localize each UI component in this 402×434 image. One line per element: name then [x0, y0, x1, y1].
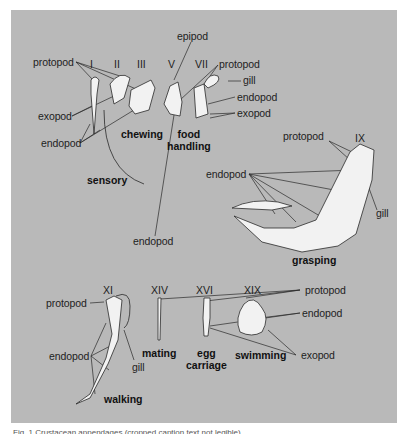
- function-label-mating: mating: [142, 347, 176, 359]
- label-protopod-grasping: protopod: [283, 131, 324, 142]
- function-label-swimming: swimming: [235, 349, 286, 361]
- label-gill-grasping: gill: [376, 208, 388, 219]
- figure-caption: Fig. 1 Crustacean appendages (cropped ca…: [13, 427, 241, 434]
- segment-label-XIV: XIV: [151, 285, 168, 296]
- label-gill-top-right: gill: [243, 75, 255, 86]
- function-label-carriage: carriage: [186, 359, 227, 371]
- label-exopod-bottom-right: exopod: [301, 350, 335, 361]
- label-exopod-top-left: exopod: [38, 111, 72, 122]
- function-label-chewing: chewing: [121, 128, 163, 140]
- label-endopod-bottom-right: endopod: [302, 308, 342, 319]
- label-endopod-grasping: endopod: [206, 169, 246, 180]
- function-label-egg: egg: [186, 347, 227, 359]
- function-label-walking: walking: [104, 393, 143, 405]
- segment-label-I: I: [90, 59, 93, 70]
- segment-label-VII: VII: [195, 59, 208, 70]
- function-label-grasping: grasping: [292, 254, 336, 266]
- function-label-sensory: sensory: [87, 174, 127, 186]
- function-label-handling: handling: [167, 140, 211, 152]
- label-exopod-top-right: exopod: [237, 108, 271, 119]
- label-protopod-bottom-right: protopod: [305, 285, 346, 296]
- label-endopod-top-right: endopod: [237, 92, 277, 103]
- segment-label-V: V: [168, 59, 175, 70]
- segment-label-XI: XI: [103, 285, 113, 296]
- segment-label-III: III: [137, 59, 146, 70]
- label-endopod-middle: endopod: [133, 236, 173, 247]
- label-endopod-walking: endopod: [49, 351, 89, 362]
- segment-label-XIX: XIX: [244, 285, 261, 296]
- function-label-food-handling: food handling: [167, 128, 211, 152]
- function-label-egg-carriage: egg carriage: [186, 347, 227, 371]
- segment-label-IX: IX: [355, 133, 365, 144]
- label-epipod: epipod: [177, 31, 208, 42]
- segment-label-XVI: XVI: [196, 285, 213, 296]
- label-protopod-walking: protopod: [46, 298, 87, 309]
- segment-label-II: II: [114, 59, 120, 70]
- label-endopod-top-left: endopod: [41, 138, 81, 149]
- label-protopod-top-left: protopod: [33, 57, 74, 68]
- label-gill-walking: gill: [132, 362, 144, 373]
- function-label-food: food: [167, 128, 211, 140]
- label-protopod-top-right: protopod: [219, 59, 260, 70]
